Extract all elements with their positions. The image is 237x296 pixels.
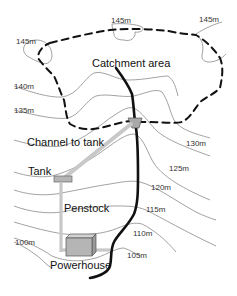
elevation-label: 120m xyxy=(151,183,171,192)
powerhouse-label: Powerhouse xyxy=(50,259,111,271)
penstock-label: Penstock xyxy=(64,202,110,214)
elevation-label: 100m xyxy=(15,238,35,247)
contour-130 xyxy=(14,108,210,156)
elevation-label: 145m xyxy=(199,15,219,24)
catchment-boundary xyxy=(38,29,222,129)
contour-135 xyxy=(14,91,210,138)
channel-pipe xyxy=(64,124,131,178)
tank-label: Tank xyxy=(28,165,52,177)
contour-140 xyxy=(14,72,178,97)
elevation-label: 145m xyxy=(111,16,131,25)
elevation-label: 140m xyxy=(14,82,34,91)
catchment-label: Catchment area xyxy=(92,57,171,69)
contour-145-right xyxy=(196,22,226,62)
elevation-label: 145m xyxy=(16,37,36,46)
tank-icon xyxy=(54,176,72,182)
contour-145-mid xyxy=(112,24,143,41)
elevation-label: 115m xyxy=(146,205,166,214)
hydro-site-diagram: 145m 145m 145m 140m 135m 130m 125m 120m … xyxy=(0,0,237,296)
channel-label: Channel to tank xyxy=(27,136,105,148)
elevation-label: 130m xyxy=(186,139,206,148)
powerhouse-icon xyxy=(66,234,96,256)
feature-labels: Catchment area Channel to tank Tank Pens… xyxy=(27,57,171,271)
stream xyxy=(90,68,138,278)
contour-120 xyxy=(14,181,216,220)
elevation-label: 125m xyxy=(169,164,189,173)
elevation-label: 110m xyxy=(133,229,153,238)
elevation-label: 105m xyxy=(127,251,147,260)
elevation-label: 135m xyxy=(14,106,34,115)
